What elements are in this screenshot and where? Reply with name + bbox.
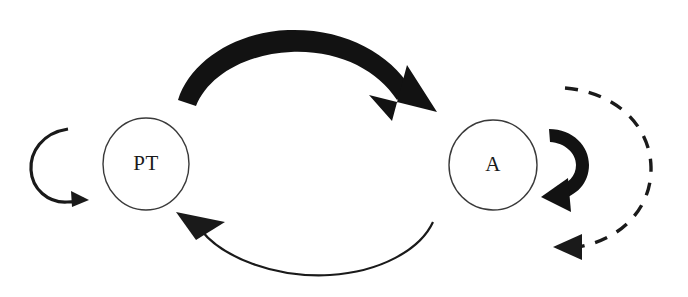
node-a-label: A xyxy=(485,152,501,176)
edge-a-self-loop xyxy=(541,129,589,212)
node-a[interactable]: A xyxy=(449,120,537,210)
edge-a-to-pt xyxy=(176,212,433,275)
a-self-loop-arrowhead xyxy=(541,178,571,212)
pt-to-a-arc-body xyxy=(178,30,411,106)
node-pt[interactable]: PT xyxy=(103,118,189,210)
pt-self-loop-arc xyxy=(31,129,84,202)
diagram-canvas: PT A xyxy=(0,0,688,297)
pt-self-loop-arrowhead xyxy=(71,191,89,207)
cycle-diagram-svg: PT A xyxy=(0,0,688,297)
edge-a-outer-dashed-loop xyxy=(553,88,651,260)
edge-pt-to-a xyxy=(178,30,437,121)
a-to-pt-arrowhead xyxy=(176,212,225,240)
a-outer-dashed-arrowhead xyxy=(553,234,582,260)
node-pt-label: PT xyxy=(133,151,159,175)
a-to-pt-arc-body xyxy=(201,222,433,275)
edge-pt-self-loop xyxy=(31,129,89,207)
